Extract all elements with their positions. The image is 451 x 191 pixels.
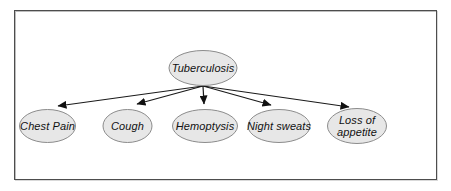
edge-tuberculosis-hemoptysis bbox=[203, 86, 204, 104]
node-label-cough: Cough bbox=[111, 120, 144, 132]
node-label-tuberculosis: Tuberculosis bbox=[172, 62, 235, 74]
node-label-chest-pain: Chest Pain bbox=[20, 120, 75, 132]
node-label-hemoptysis: Hemoptysis bbox=[176, 120, 234, 132]
node-label-loss-of-appetite: Loss of appetite bbox=[329, 114, 385, 139]
edge-tuberculosis-cough bbox=[137, 86, 203, 104]
edge-tuberculosis-night-sweats bbox=[203, 86, 271, 105]
edge-tuberculosis-chest-pain bbox=[58, 86, 203, 106]
node-label-night-sweats: Night sweats bbox=[247, 120, 311, 132]
diagram-shapes bbox=[0, 0, 451, 191]
edge-tuberculosis-loss-of-appetite bbox=[203, 86, 349, 107]
diagram-canvas: Tuberculosis Chest Pain Cough Hemoptysis… bbox=[0, 0, 451, 191]
